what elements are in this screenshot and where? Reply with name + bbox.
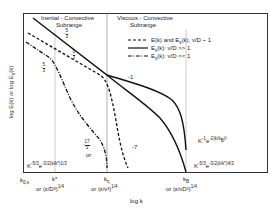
slope-annotation-minus1: -1 xyxy=(128,74,133,80)
region-inertial-title: Inertial - Convective xyxy=(41,15,94,21)
slope-annotation-minus17-3: -173 xyxy=(83,140,90,150)
legend-dashed-label: E(k) and Es(k), ν/D ~ 1 xyxy=(151,37,211,43)
tick-kB-formula: or (ε/νD²)1/4 xyxy=(166,186,197,192)
slope-annotation-solid: -53 xyxy=(64,29,68,39)
x-axis-label: log k xyxy=(130,198,143,204)
tick-k0s: k0,s xyxy=(20,177,29,183)
tick-keta: kη xyxy=(104,176,110,182)
tick-kstar-formula: or (ε/D³)1/4 xyxy=(36,186,64,192)
or-label: or xyxy=(86,152,91,158)
legend-dashdot-label: Es(k): ν/D << 1 xyxy=(151,53,190,59)
slope-annotation-dashdot: -53 xyxy=(41,63,45,73)
tick-kB: kB xyxy=(183,176,189,182)
region-viscous-subtitle: Subrange xyxy=(130,22,156,28)
annotation-batchelor-cutoff: K-1e-2(k/kB)² xyxy=(198,138,227,144)
curve-dashdot xyxy=(26,42,107,168)
annotation-dashdot-cutoff: K-5/3e-3/2(k/k*)1/3 xyxy=(27,163,67,169)
region-inertial-subtitle: Subrange xyxy=(56,22,82,28)
slope-annotation-minus7: -7 xyxy=(132,144,137,150)
region-viscous-title: Viscous - Convective xyxy=(117,15,173,21)
plot-frame xyxy=(24,14,268,173)
tick-kstar: k* xyxy=(52,176,57,182)
tick-keta-formula: or (ε/ν³)1/4 xyxy=(91,186,118,192)
curve-solid-e xyxy=(107,75,186,172)
legend-solid-label: Es(k): ν/D >> 1 xyxy=(151,45,190,51)
annotation-solid-cutoff: K-5/3e-3/2(k/k*)4/3 xyxy=(194,163,234,169)
y-axis-label: log E(k) or log Es(k) xyxy=(8,42,16,142)
slope-annotation-dashed: -53 xyxy=(71,50,75,60)
spectrum-diagram xyxy=(0,0,270,214)
